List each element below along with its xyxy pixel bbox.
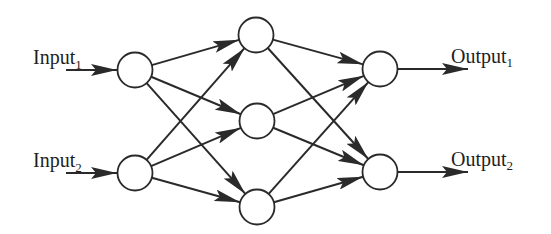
input-node-i1 xyxy=(118,53,153,88)
output-node-o2 xyxy=(363,155,398,190)
labels: Input1 Input2 Output1 Output2 xyxy=(33,45,513,175)
output2-label: Output2 xyxy=(451,148,513,173)
neurons xyxy=(118,18,398,225)
edge-i2-h1 xyxy=(147,48,245,160)
edge-h1-o1 xyxy=(273,40,363,65)
edge-i2-h2 xyxy=(151,128,241,166)
edge-i1-h1 xyxy=(152,40,239,65)
hidden-node-h2 xyxy=(240,104,275,139)
input1-label: Input1 xyxy=(33,46,82,72)
edge-i1-h2 xyxy=(151,77,241,115)
neural-network-diagram: Input1 Input2 Output1 Output2 xyxy=(0,0,551,234)
edge-h3-o1 xyxy=(269,82,369,194)
edge-h2-o2 xyxy=(273,128,364,166)
output-node-o1 xyxy=(363,52,398,87)
hidden-node-h3 xyxy=(240,190,275,225)
edge-i2-h3 xyxy=(152,178,240,203)
edge-h3-o2 xyxy=(274,177,363,202)
edge-h2-o1 xyxy=(273,76,364,114)
input2-label: Input2 xyxy=(33,149,82,175)
edge-i1-h3 xyxy=(147,83,246,194)
output1-label: Output1 xyxy=(451,45,513,70)
input-node-i2 xyxy=(118,156,153,191)
edge-h1-o2 xyxy=(268,48,369,159)
hidden-node-h1 xyxy=(239,18,274,53)
